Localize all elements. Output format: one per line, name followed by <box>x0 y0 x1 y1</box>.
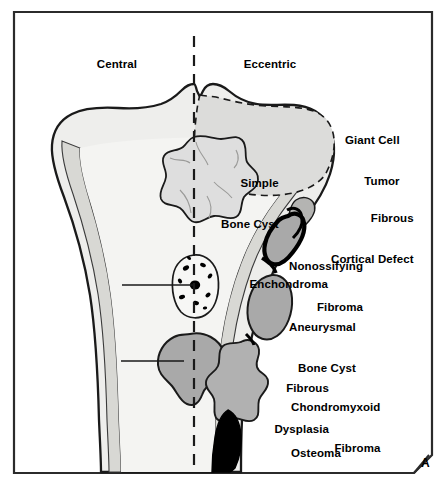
label-fibrous-dysplasia-line1: Fibrous <box>199 382 329 396</box>
label-fibrous-cortical-defect-line1: Fibrous <box>331 212 414 226</box>
header-eccentric: Eccentric <box>210 58 330 72</box>
bone-tumor-location-figure: Central Eccentric Giant Cell Tumor Fibro… <box>0 0 446 486</box>
label-simple-bone-cyst: Simple Bone Cyst <box>221 150 279 258</box>
panel-letter: A <box>421 456 430 470</box>
label-enchondroma: Enchondroma <box>198 278 328 292</box>
label-giant-cell-tumor-line1: Giant Cell <box>345 134 400 148</box>
label-nonossifying-fibroma-line1: Nonossifying <box>289 260 363 274</box>
label-fibrous-dysplasia: Fibrous Dysplasia <box>199 355 329 463</box>
label-simple-bone-cyst-line2: Bone Cyst <box>221 218 279 232</box>
label-simple-bone-cyst-line1: Simple <box>221 177 279 191</box>
header-central: Central <box>57 58 177 72</box>
label-fibrous-dysplasia-line2: Dysplasia <box>199 423 329 437</box>
label-aneurysmal-bone-cyst-line1: Aneurysmal <box>289 321 356 335</box>
